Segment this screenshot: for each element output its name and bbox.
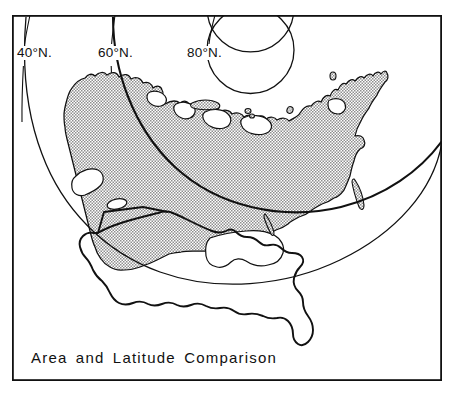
map-figure: 40°N. 60°N. 80°N. Area and Latitude Comp… <box>0 0 453 395</box>
latitude-label-80: 80°N. <box>186 46 223 60</box>
latitude-label-60: 60°N. <box>97 46 134 60</box>
meridian-left-lower <box>22 66 23 122</box>
island-small-3 <box>286 106 294 115</box>
map-canvas <box>0 0 453 395</box>
coast-notch-northeast <box>328 99 346 114</box>
island-novaya-zemlya <box>191 100 220 110</box>
island-small-4 <box>330 72 336 80</box>
latitude-label-40: 40°N. <box>16 46 53 60</box>
figure-caption: Area and Latitude Comparison <box>31 350 277 365</box>
island-sakhalin <box>352 179 364 210</box>
island-small-1 <box>245 109 251 114</box>
island-small-2 <box>250 114 255 118</box>
